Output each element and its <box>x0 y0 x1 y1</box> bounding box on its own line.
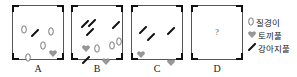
legend-clover: 토끼풀 <box>248 29 282 41</box>
question-mark: ? <box>192 28 242 37</box>
oval-icon <box>48 22 54 40</box>
slash-icon <box>248 43 256 53</box>
oval-icon <box>21 20 27 38</box>
oval-icon <box>40 36 46 54</box>
box-c <box>131 5 183 60</box>
label-a: A <box>12 63 64 74</box>
legend-plantain: 질경이 <box>248 16 280 28</box>
label-c: C <box>131 63 183 74</box>
label-d: D <box>191 63 243 74</box>
slash-icon <box>31 23 39 41</box>
label-b: B <box>71 63 123 74</box>
slash-icon <box>112 15 120 33</box>
oval-icon <box>116 32 122 50</box>
slash-icon <box>147 27 155 45</box>
legend-foxtail: 강아지풀 <box>248 42 290 54</box>
oval-icon <box>94 39 100 57</box>
heart-icon <box>49 43 57 61</box>
box-b <box>71 5 123 60</box>
box-d: ? <box>191 5 243 60</box>
slash-icon <box>167 21 175 39</box>
oval-icon <box>248 17 254 28</box>
slash-icon <box>139 20 147 38</box>
heart-icon <box>248 30 256 40</box>
heart-icon <box>137 44 145 62</box>
box-a <box>12 5 64 60</box>
